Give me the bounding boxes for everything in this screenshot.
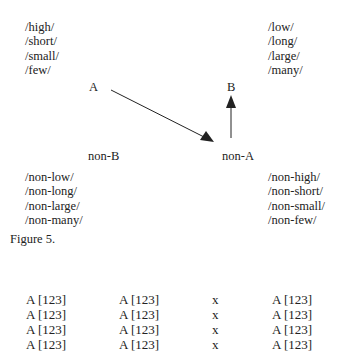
table-cell: x — [212, 307, 219, 323]
term: /non-small/ — [268, 199, 325, 213]
table-cell: x — [212, 322, 219, 338]
arrow-non-a-to-b-icon — [226, 95, 236, 138]
table-cell: A [123] — [119, 322, 159, 338]
table-cell: A [123] — [26, 337, 66, 353]
table-cell: A [123] — [26, 292, 66, 308]
node-non-a-label: non-A — [222, 149, 254, 164]
table-cell: A [123] — [26, 322, 66, 338]
bottom-left-term-list: /non-low/ /non-long/ /non-large/ /non-ma… — [25, 170, 83, 227]
table-cell: A [123] — [272, 307, 312, 323]
table-cell: A [123] — [119, 292, 159, 308]
term: /non-long/ — [25, 184, 83, 198]
term: /non-large/ — [25, 199, 83, 213]
table-cell: A [123] — [272, 292, 312, 308]
table-cell: x — [212, 292, 219, 308]
term: /non-high/ — [268, 170, 325, 184]
table-cell: A [123] — [119, 337, 159, 353]
table-row: A [123] A [123] x A [123] — [0, 292, 340, 306]
term: /non-few/ — [268, 213, 325, 227]
figure-caption: Figure 5. — [10, 232, 55, 247]
term: /non-many/ — [25, 213, 83, 227]
page: /high/ /short/ /small/ /few/ /low/ /long… — [0, 0, 340, 357]
term: /non-short/ — [268, 184, 325, 198]
table-row: A [123] A [123] x A [123] — [0, 307, 340, 321]
arrow-a-to-non-a-icon — [111, 90, 214, 142]
table-cell: A [123] — [119, 307, 159, 323]
term: /non-low/ — [25, 170, 83, 184]
table-cell: x — [212, 337, 219, 353]
table-cell: A [123] — [272, 322, 312, 338]
table-cell: A [123] — [26, 307, 66, 323]
table-row: A [123] A [123] x A [123] — [0, 337, 340, 351]
node-non-b-label: non-B — [88, 149, 119, 164]
table-row: A [123] A [123] x A [123] — [0, 322, 340, 336]
table-cell: A [123] — [272, 337, 312, 353]
bottom-right-term-list: /non-high/ /non-short/ /non-small/ /non-… — [268, 170, 325, 227]
